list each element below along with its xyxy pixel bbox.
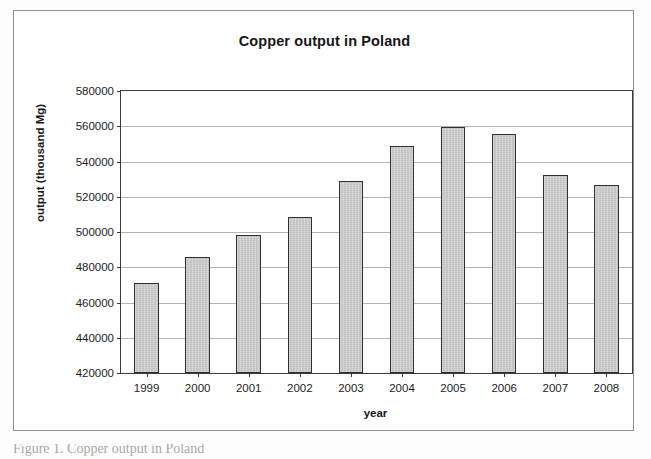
- plot-area: 4200004400004600004800005000005200005400…: [120, 90, 633, 374]
- bar: [134, 283, 159, 373]
- bar: [492, 134, 517, 373]
- bar: [594, 185, 619, 373]
- bar: [390, 146, 415, 373]
- x-tick-label: 1999: [134, 382, 160, 394]
- x-tick-label: 2004: [389, 382, 415, 394]
- y-tick-label: 540000: [76, 156, 114, 168]
- x-tick-mark: [555, 373, 556, 377]
- bar: [543, 175, 568, 373]
- bar-slot: 2008: [581, 91, 632, 373]
- y-tick-label: 460000: [76, 297, 114, 309]
- bar-slot: 1999: [121, 91, 172, 373]
- x-tick-mark: [402, 373, 403, 377]
- bar-slot: 2003: [325, 91, 376, 373]
- y-tick-label: 520000: [76, 191, 114, 203]
- bar: [339, 181, 364, 373]
- y-tick-label: 580000: [76, 85, 114, 97]
- chart-frame: Copper output in Poland output (thousand…: [13, 10, 634, 431]
- chart-title: Copper output in Poland: [14, 33, 635, 49]
- y-tick-mark: [117, 373, 121, 374]
- x-tick-label: 2003: [338, 382, 364, 394]
- scanned-page-background: Copper output in Poland output (thousand…: [0, 0, 651, 459]
- x-tick-mark: [147, 373, 148, 377]
- bar-series: 1999200020012002200320042005200620072008: [121, 91, 632, 373]
- x-tick-label: 2001: [236, 382, 262, 394]
- y-tick-label: 500000: [76, 226, 114, 238]
- bar-slot: 2004: [376, 91, 427, 373]
- bar: [288, 217, 313, 373]
- bar: [185, 257, 210, 373]
- x-tick-mark: [249, 373, 250, 377]
- x-tick-label: 2008: [594, 382, 620, 394]
- bar-slot: 2007: [530, 91, 581, 373]
- y-tick-label: 440000: [76, 332, 114, 344]
- bar-slot: 2006: [479, 91, 530, 373]
- x-tick-mark: [351, 373, 352, 377]
- bar-slot: 2005: [428, 91, 479, 373]
- figure-caption-text: Figure 1. Copper output in Poland: [13, 444, 483, 456]
- bar-slot: 2000: [172, 91, 223, 373]
- x-tick-label: 2002: [287, 382, 313, 394]
- bar: [236, 235, 261, 373]
- y-tick-label: 480000: [76, 261, 114, 273]
- y-axis-title: output (thousand Mg): [34, 33, 46, 293]
- x-tick-label: 2000: [185, 382, 211, 394]
- bar-slot: 2001: [223, 91, 274, 373]
- figure-caption: Figure 1. Copper output in Poland: [13, 444, 483, 459]
- x-axis-title: year: [120, 407, 631, 419]
- x-tick-mark: [606, 373, 607, 377]
- x-tick-label: 2007: [543, 382, 569, 394]
- x-tick-mark: [300, 373, 301, 377]
- x-tick-label: 2006: [491, 382, 517, 394]
- bar: [441, 127, 466, 373]
- y-tick-label: 560000: [76, 120, 114, 132]
- x-tick-mark: [453, 373, 454, 377]
- y-tick-label: 420000: [76, 367, 114, 379]
- x-tick-label: 2005: [440, 382, 466, 394]
- x-tick-mark: [198, 373, 199, 377]
- x-tick-mark: [504, 373, 505, 377]
- bar-slot: 2002: [274, 91, 325, 373]
